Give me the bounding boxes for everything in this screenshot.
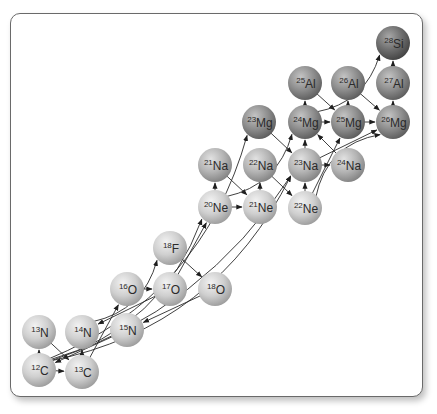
isotope-node-13C: 13C bbox=[65, 355, 99, 389]
isotope-node-24Na: 24Na bbox=[331, 148, 365, 182]
isotope-node-12C: 12C bbox=[22, 353, 56, 387]
reaction-arrow-26Al-to-26Mg bbox=[359, 93, 379, 110]
reaction-arrow-23Mg-to-23Na bbox=[270, 132, 292, 152]
isotope-node-26Al: 26Al bbox=[331, 66, 365, 100]
isotope-node-24Mg: 24Mg bbox=[288, 105, 322, 139]
isotope-node-25Mg: 25Mg bbox=[331, 105, 365, 139]
reaction-network: 28Si25Al26Al27Al23Mg24Mg25Mg26Mg21Na22Na… bbox=[0, 0, 437, 414]
isotope-node-18F: 18F bbox=[153, 231, 187, 265]
isotope-node-23Na: 23Na bbox=[288, 148, 322, 182]
isotope-node-21Ne: 21Ne bbox=[243, 190, 277, 224]
reaction-arrow-24Na-to-24Mg bbox=[318, 135, 338, 155]
isotope-nodes: 28Si25Al26Al27Al23Mg24Mg25Mg26Mg21Na22Na… bbox=[22, 26, 410, 389]
isotope-node-27Al: 27Al bbox=[376, 66, 410, 100]
isotope-node-22Na: 22Na bbox=[243, 148, 277, 182]
reaction-arrow-21Na-to-21Ne bbox=[226, 175, 247, 194]
isotope-node-21Na: 21Na bbox=[198, 148, 232, 182]
isotope-node-28Si: 28Si bbox=[376, 26, 410, 60]
isotope-node-20Ne: 20Ne bbox=[198, 190, 232, 224]
isotope-node-23Mg: 23Mg bbox=[242, 105, 276, 139]
isotope-node-17O: 17O bbox=[153, 272, 187, 306]
isotope-node-14N: 14N bbox=[65, 315, 99, 349]
isotope-node-22Ne: 22Ne bbox=[288, 191, 322, 225]
isotope-node-26Mg: 26Mg bbox=[376, 105, 410, 139]
isotope-node-18O: 18O bbox=[198, 272, 232, 306]
isotope-node-13N: 13N bbox=[22, 315, 56, 349]
isotope-node-15N: 15N bbox=[110, 313, 144, 347]
isotope-node-16O: 16O bbox=[110, 272, 144, 306]
isotope-node-25Al: 25Al bbox=[288, 66, 322, 100]
